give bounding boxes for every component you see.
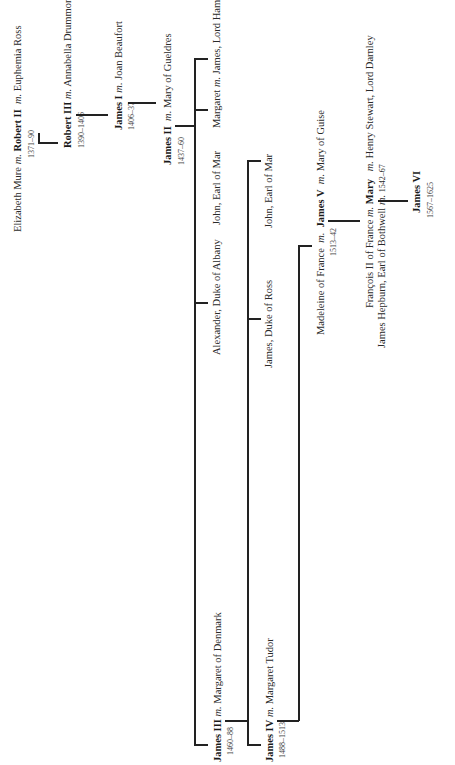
person-john-earl-of-mar[interactable]: John, Earl of Mar xyxy=(211,151,222,225)
marriage-marker: m. xyxy=(364,161,375,171)
person-james-v[interactable]: James V xyxy=(315,189,326,227)
connector-g5-g6-a xyxy=(277,720,299,722)
connector-g2-g3 xyxy=(76,114,108,116)
connector-g3-g4 xyxy=(128,102,156,104)
connector-g1-g2 xyxy=(38,142,58,144)
mary-dates: 1542–67 xyxy=(378,164,387,192)
connector-g5-g6-c xyxy=(298,245,312,247)
person-james-duke-of-ross[interactable]: James, Duke of Ross xyxy=(263,280,274,368)
james-vi-node: James VI xyxy=(411,171,423,213)
robert-ii-dates: 1371–90 xyxy=(27,130,36,158)
person-madeleine-of-france[interactable]: Madeleine of France xyxy=(315,248,326,335)
james-i-dates: 1406–37 xyxy=(127,102,136,130)
connector-g5-g6-b xyxy=(298,245,300,721)
person-james-iv[interactable]: James IV xyxy=(264,720,275,762)
person-euphemia-ross[interactable]: Euphemia Ross xyxy=(12,26,23,92)
person-annabella-drummond[interactable]: Annabella Drummond xyxy=(62,0,73,87)
bracket-g4-children xyxy=(194,58,196,745)
person-robert-iii[interactable]: Robert III xyxy=(62,102,73,148)
marriage-marker: m. xyxy=(264,707,275,717)
child-james-duke-of-ross: James, Duke of Ross xyxy=(263,280,275,368)
person-james-i[interactable]: James I xyxy=(113,95,124,130)
bracket-tick-alexander xyxy=(194,302,208,304)
connector-g7-g8 xyxy=(378,200,408,202)
child-james-iii: James III m. Margaret of Denmark xyxy=(212,612,224,762)
person-james-vi[interactable]: James VI xyxy=(411,171,422,213)
marriage-marker: m. xyxy=(212,706,223,716)
person-joan-beaufort[interactable]: Joan Beaufort xyxy=(113,21,124,80)
robert-iii-marriage-line: Robert III m. Annabella Drummond xyxy=(62,0,74,148)
marriage-marker: m. xyxy=(364,207,375,217)
child-alexander: Alexander, Duke of Albany xyxy=(211,239,223,355)
james-iii-dates: 1460–88 xyxy=(226,727,235,755)
james-v-dates: 1513–42 xyxy=(329,228,338,256)
bracket-tick-james-ross xyxy=(247,318,261,320)
marriage-marker: m. xyxy=(315,174,326,184)
connector-g4-children xyxy=(175,125,195,127)
child-john-earl-of-mar: John, Earl of Mar xyxy=(211,151,223,225)
person-john-earl-of-mar-2[interactable]: John, Earl of Mar xyxy=(263,154,274,228)
james-v-marriage-line: Madeleine of France m. James V m. Mary o… xyxy=(315,110,327,335)
bracket-tick-margaret xyxy=(194,58,208,60)
mary-marriage-line-1: François II of France m. Mary m. Henry S… xyxy=(364,35,376,308)
person-francois-ii[interactable]: François II of France xyxy=(364,220,375,308)
james-vi-dates: 1567–1625 xyxy=(426,182,435,218)
person-alexander-duke-of-albany[interactable]: Alexander, Duke of Albany xyxy=(211,239,222,355)
person-mary[interactable]: Mary xyxy=(364,179,375,204)
person-henry-stewart-lord-darnley[interactable]: Henry Stewart, Lord Darnley xyxy=(364,35,375,158)
person-james-hepburn[interactable]: James Hepburn, Earl of Bothwell xyxy=(376,208,387,348)
mary-marriage-line-2: James Hepburn, Earl of Bothwell m. 1542–… xyxy=(376,164,389,348)
person-margaret[interactable]: Margaret xyxy=(211,90,222,128)
marriage-marker: m. xyxy=(113,82,124,92)
person-elizabeth-mure[interactable]: Elizabeth Mure xyxy=(12,167,23,232)
marriage-marker: m. xyxy=(211,77,222,87)
person-lord-hamilton[interactable]: James, Lord Hamilton xyxy=(211,0,222,74)
person-margaret-tudor[interactable]: Margaret Tudor xyxy=(264,638,275,704)
marriage-marker: m. xyxy=(62,89,73,99)
robert-iii-dates: 1390–1406 xyxy=(77,112,86,148)
person-mary-of-gueldres[interactable]: Mary of Gueldres xyxy=(162,33,173,108)
bracket-tick-james-iv xyxy=(247,744,261,746)
bracket-tick-james-iii xyxy=(194,744,208,746)
connector-g5-children xyxy=(225,720,247,722)
child-james-iv: James IV m. Margaret Tudor xyxy=(264,638,276,762)
james-i-marriage-line: James I m. Joan Beaufort xyxy=(113,21,125,130)
marriage-marker: m. xyxy=(315,233,326,243)
person-james-ii[interactable]: James II xyxy=(162,126,173,165)
james-ii-dates: 1437–60 xyxy=(177,137,186,165)
person-mary-of-guise[interactable]: Mary of Guise xyxy=(315,110,326,171)
james-ii-marriage-line: James II m. Mary of Gueldres xyxy=(162,33,174,165)
person-robert-ii[interactable]: Robert II xyxy=(12,109,23,151)
person-james-iii[interactable]: James III xyxy=(212,719,223,762)
bracket-tick-john-2 xyxy=(247,160,261,162)
child-john-earl-of-mar-2: John, Earl of Mar xyxy=(263,154,275,228)
bracket-g5-children xyxy=(247,160,249,745)
marriage-marker: m. xyxy=(12,94,23,104)
marriage-marker: m. xyxy=(12,154,23,164)
connector-g1-stub xyxy=(38,133,40,143)
bracket-tick-john xyxy=(194,109,208,111)
james-iv-dates: 1488–1513 xyxy=(278,722,287,758)
connector-g6-g7 xyxy=(328,220,360,222)
person-margaret-of-denmark[interactable]: Margaret of Denmark xyxy=(212,612,223,703)
child-margaret: Margaret m. James, Lord Hamilton xyxy=(211,0,223,128)
robert-ii-marriage-line: Elizabeth Mure m. Robert II m. Euphemia … xyxy=(12,26,24,233)
marriage-marker: m. xyxy=(162,111,173,121)
